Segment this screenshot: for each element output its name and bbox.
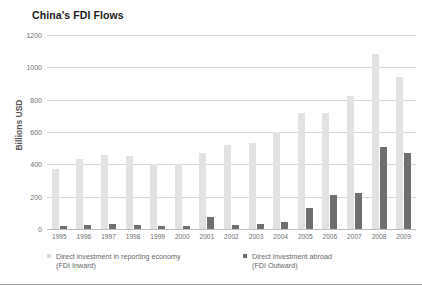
x-axis-tick-label: 2001: [200, 233, 215, 240]
bar-fdi-outward[interactable]: [257, 224, 264, 229]
x-axis-tick-label: 1999: [150, 233, 165, 240]
y-axis-tick-label: 400: [30, 161, 42, 168]
y-axis-title: Billions USD: [14, 65, 24, 185]
bar-fdi-outward[interactable]: [232, 225, 239, 229]
bar-fdi-outward[interactable]: [109, 224, 116, 229]
bar-fdi-inward[interactable]: [76, 159, 83, 229]
x-axis-line: 0: [47, 229, 416, 230]
y-axis-tick-label: 0: [38, 226, 42, 233]
y-axis-tick-label: 600: [30, 129, 42, 136]
y-axis-tick-label: 200: [30, 193, 42, 200]
bar-group: 2006: [318, 35, 343, 229]
bar-fdi-inward[interactable]: [372, 54, 379, 229]
x-axis-tick-label: 2005: [298, 233, 313, 240]
bar-group: 1996: [72, 35, 97, 229]
legend-label: Direct investment in reporting economy(F…: [56, 252, 181, 271]
bar-fdi-inward[interactable]: [396, 77, 403, 229]
bar-fdi-inward[interactable]: [126, 156, 133, 229]
bar-fdi-outward[interactable]: [281, 222, 288, 229]
x-axis-tick-label: 2003: [249, 233, 264, 240]
bar-fdi-inward[interactable]: [249, 143, 256, 229]
legend-swatch-icon: [243, 254, 247, 258]
bar-fdi-outward[interactable]: [134, 225, 141, 229]
bar-fdi-inward[interactable]: [298, 113, 305, 229]
x-axis-tick-label: 1997: [101, 233, 116, 240]
x-axis-tick-label: 2002: [224, 233, 239, 240]
bar-fdi-inward[interactable]: [322, 113, 329, 229]
y-axis-tick-label: 1000: [26, 64, 42, 71]
bar-group: 2007: [342, 35, 367, 229]
bar-fdi-inward[interactable]: [273, 132, 280, 229]
chart-figure: China's FDI Flows Billions USD 020040060…: [0, 0, 422, 293]
x-axis-tick-label: 1996: [77, 233, 92, 240]
x-axis-tick-label: 2000: [175, 233, 190, 240]
bar-group: 2005: [293, 35, 318, 229]
bar-fdi-inward[interactable]: [224, 145, 231, 229]
bar-fdi-inward[interactable]: [347, 96, 354, 229]
bar-groups: 1995199619971998199920002001200220032004…: [47, 35, 416, 229]
bar-fdi-outward[interactable]: [84, 225, 91, 229]
bar-fdi-inward[interactable]: [52, 169, 59, 229]
bar-group: 2002: [219, 35, 244, 229]
bar-group: 1998: [121, 35, 146, 229]
legend-item[interactable]: Direct investment abroad(FDI Outward): [243, 252, 332, 271]
bar-fdi-outward[interactable]: [330, 195, 337, 229]
bar-fdi-outward[interactable]: [355, 193, 362, 229]
bar-fdi-outward[interactable]: [306, 208, 313, 229]
bar-fdi-outward[interactable]: [404, 153, 411, 229]
x-axis-tick-label: 2004: [273, 233, 288, 240]
bar-group: 1999: [145, 35, 170, 229]
bar-group: 1995: [47, 35, 72, 229]
bar-group: 2004: [268, 35, 293, 229]
bar-group: 1997: [96, 35, 121, 229]
y-axis-tick-label: 1200: [26, 32, 42, 39]
chart-legend: Direct investment in reporting economy(F…: [47, 252, 416, 271]
bar-fdi-outward[interactable]: [380, 147, 387, 229]
legend-item[interactable]: Direct investment in reporting economy(F…: [47, 252, 243, 271]
bottom-divider: [0, 284, 422, 285]
y-axis-tick-label: 800: [30, 96, 42, 103]
bar-fdi-outward[interactable]: [183, 226, 190, 229]
bar-fdi-inward[interactable]: [175, 164, 182, 229]
bar-fdi-inward[interactable]: [150, 164, 157, 229]
bar-group: 2003: [244, 35, 269, 229]
legend-label: Direct investment abroad(FDI Outward): [252, 252, 332, 271]
bar-group: 2001: [195, 35, 220, 229]
x-axis-tick-label: 1995: [52, 233, 67, 240]
x-axis-tick-label: 2007: [347, 233, 362, 240]
bar-group: 2009: [391, 35, 416, 229]
bar-group: 2008: [367, 35, 392, 229]
bar-fdi-inward[interactable]: [101, 155, 108, 229]
x-axis-tick-label: 2008: [372, 233, 387, 240]
x-axis-tick-label: 1998: [126, 233, 141, 240]
x-axis-tick-label: 2009: [396, 233, 411, 240]
bar-fdi-inward[interactable]: [199, 153, 206, 229]
page-title: China's FDI Flows: [32, 9, 124, 21]
bar-fdi-outward[interactable]: [60, 226, 67, 229]
bar-group: 2000: [170, 35, 195, 229]
legend-swatch-icon: [47, 254, 51, 258]
bar-fdi-outward[interactable]: [158, 226, 165, 229]
plot-area: 020040060080010001200 199519961997199819…: [47, 35, 416, 229]
x-axis-tick-label: 2006: [322, 233, 337, 240]
bar-fdi-outward[interactable]: [207, 217, 214, 229]
